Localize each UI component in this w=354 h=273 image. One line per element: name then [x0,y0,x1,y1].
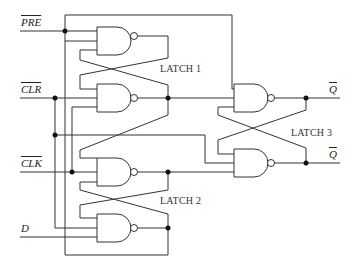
input-label-clr: CLR [21,84,41,95]
latch-label-2: LATCH 2 [160,196,201,206]
input-label-pre: PRE [21,17,41,28]
wire-pre-to-latch3 [65,15,240,89]
latch3-gate-b [234,149,275,177]
junction-dot [304,96,309,101]
latch1-gate-a [97,27,138,55]
latch-label-1: LATCH 1 [160,64,201,74]
input-label-clk: CLK [21,158,42,169]
latch3-gate-a [234,84,275,112]
latch-label-3: LATCH 3 [291,128,332,138]
junction-dot [304,161,309,166]
latch2-gate-b [97,214,138,242]
junction-dot [53,133,58,138]
input-label-d: D [21,223,29,234]
junction-dot [166,226,171,231]
junction-dot [53,96,58,101]
latch2-gate-a [97,158,138,186]
wire-clk-to-latch1 [72,107,97,172]
junction-dot [166,170,171,175]
output-label-q-top: Q [329,84,337,95]
wire-clr-vertical [55,98,97,228]
latch1-gate-b [97,84,138,112]
junction-dot [166,96,171,101]
junction-dot [70,170,75,175]
junction-dot [63,29,68,34]
output-label-q-bottom: Q [329,149,337,160]
